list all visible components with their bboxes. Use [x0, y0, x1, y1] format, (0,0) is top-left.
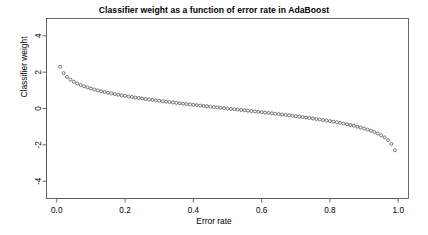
data-point	[264, 111, 267, 114]
data-point	[281, 113, 284, 116]
data-point	[373, 131, 376, 134]
data-point	[147, 98, 150, 101]
data-point	[130, 95, 133, 98]
data-point	[315, 117, 318, 120]
data-point	[322, 119, 325, 122]
x-tick-label: 0.8	[324, 206, 336, 215]
data-point	[291, 114, 294, 117]
data-point	[69, 78, 72, 81]
data-point	[346, 123, 349, 126]
plot-frame-border	[47, 19, 409, 199]
data-point	[106, 91, 109, 94]
y-tick-label: 0	[34, 106, 43, 111]
data-point	[229, 107, 232, 110]
data-point	[96, 89, 99, 92]
data-point	[387, 139, 390, 142]
data-point	[246, 109, 249, 112]
data-point	[188, 103, 191, 106]
data-point	[223, 107, 226, 110]
data-point	[154, 99, 157, 102]
data-point	[356, 125, 359, 128]
data-point	[359, 126, 362, 129]
data-point	[212, 106, 215, 109]
scatter-plot-canvas: 0.00.20.40.60.81.0 420-2-4	[0, 0, 428, 235]
data-point	[206, 105, 209, 108]
data-point	[233, 108, 236, 111]
data-point	[260, 111, 263, 114]
data-point	[113, 93, 116, 96]
x-tick-label: 1.0	[393, 206, 405, 215]
x-axis-label: Error rate	[0, 216, 428, 226]
data-point	[216, 106, 219, 109]
data-point	[383, 136, 386, 139]
data-point	[178, 102, 181, 105]
data-point	[311, 117, 314, 120]
data-point	[62, 72, 65, 75]
data-point	[141, 97, 144, 100]
y-tick-label: 4	[34, 33, 43, 38]
data-point	[161, 100, 164, 103]
data-point	[171, 101, 174, 104]
y-axis-label: Classifier weight	[19, 7, 29, 127]
data-point	[339, 121, 342, 124]
data-point	[117, 93, 120, 96]
data-point	[250, 110, 253, 113]
data-point	[144, 97, 147, 100]
data-point	[298, 115, 301, 118]
data-point	[86, 86, 89, 89]
data-point	[65, 75, 68, 78]
data-point	[151, 98, 154, 101]
data-point	[328, 120, 331, 123]
data-point	[134, 96, 137, 99]
data-point	[127, 95, 130, 98]
data-point	[72, 80, 75, 83]
data-point	[325, 119, 328, 122]
data-point	[226, 107, 229, 110]
x-tick-label: 0.2	[119, 206, 131, 215]
y-tick-label: 2	[34, 69, 43, 74]
data-point	[93, 88, 96, 91]
data-point	[165, 100, 168, 103]
data-point	[349, 124, 352, 127]
data-point	[240, 108, 243, 111]
data-point	[363, 127, 366, 130]
data-point	[199, 104, 202, 107]
data-point	[137, 97, 140, 100]
y-tick-label: -2	[34, 141, 43, 149]
data-point	[100, 90, 103, 93]
chart-figure: Classifier weight as a function of error…	[0, 0, 428, 235]
data-point	[274, 112, 277, 115]
data-point	[202, 104, 205, 107]
data-point	[284, 113, 287, 116]
data-point	[267, 111, 270, 114]
data-point	[335, 121, 338, 124]
data-point	[76, 82, 79, 85]
data-point	[308, 117, 311, 120]
data-point	[352, 124, 355, 127]
data-point-series	[59, 65, 397, 152]
data-point	[182, 102, 185, 105]
x-axis-ticks: 0.00.20.40.60.81.0	[51, 199, 404, 215]
data-point	[257, 110, 260, 113]
data-point	[390, 142, 393, 145]
data-point	[103, 90, 106, 93]
data-point	[168, 101, 171, 104]
data-point	[277, 113, 280, 116]
data-point	[305, 116, 308, 119]
x-tick-label: 0.0	[51, 206, 63, 215]
y-axis-ticks: 420-2-4	[34, 33, 47, 185]
data-point	[270, 112, 273, 115]
data-point	[236, 108, 239, 111]
y-tick-label: -4	[34, 177, 43, 185]
data-point	[89, 87, 92, 90]
data-point	[332, 120, 335, 123]
data-point	[158, 99, 161, 102]
data-point	[209, 105, 212, 108]
x-tick-label: 0.6	[256, 206, 268, 215]
data-point	[175, 101, 178, 104]
axes-group	[47, 19, 409, 199]
data-point	[294, 115, 297, 118]
data-point	[287, 114, 290, 117]
data-point	[59, 65, 62, 68]
data-point	[366, 128, 369, 131]
